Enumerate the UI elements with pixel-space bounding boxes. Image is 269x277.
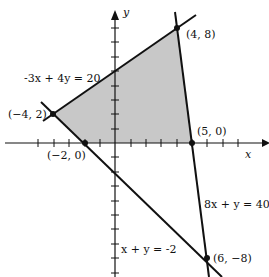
y-axis-arrow-icon [111, 10, 119, 20]
shaded-region [53, 28, 192, 143]
vertex-label: (−4, 2) [8, 108, 47, 121]
equation-label-1: -3x + 4y = 20 [24, 72, 101, 85]
vertex-label: (6, −8) [213, 252, 252, 265]
vertex-label: (5, 0) [197, 125, 227, 138]
equation-label-3: x + y = -2 [121, 243, 177, 256]
equation-label-2: 8x + y = 40 [204, 198, 269, 211]
vertex-label: (4, 8) [186, 28, 216, 41]
feasible-region-diagram: x y [0, 0, 269, 277]
y-axis-label: y [122, 6, 130, 19]
vertex-label: (−2, 0) [47, 149, 86, 162]
x-axis-label: x [245, 148, 252, 161]
x-axis-arrow-icon [262, 139, 269, 147]
